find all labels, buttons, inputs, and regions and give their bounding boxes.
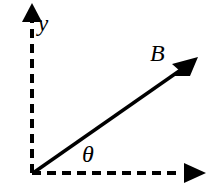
diagram-canvas bbox=[0, 0, 214, 193]
vector-b-line bbox=[33, 69, 182, 173]
vector-b-label: B bbox=[150, 41, 165, 65]
y-axis-label: y bbox=[38, 12, 48, 35]
angle-theta-label: θ bbox=[82, 142, 94, 166]
vector-diagram: y B θ bbox=[0, 0, 214, 193]
x-axis-arrowhead-icon bbox=[184, 163, 206, 183]
